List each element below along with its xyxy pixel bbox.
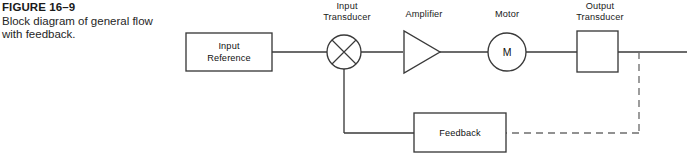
- label-amplifier: Amplifier: [405, 9, 442, 19]
- label-output-transducer-line1: Output: [586, 1, 615, 11]
- block-input-reference-line2: Reference: [207, 53, 251, 63]
- block-feedback-label: Feedback: [439, 128, 481, 138]
- block-motor-symbol: M: [503, 46, 512, 58]
- block-input-reference: [186, 33, 272, 71]
- block-input-reference-line1: Input: [218, 41, 239, 51]
- block-amplifier-triangle: [404, 31, 440, 73]
- block-diagram: Input Transducer Amplifier Motor Output …: [0, 0, 693, 163]
- block-output-transducer: [577, 31, 618, 72]
- label-input-transducer-line2: Transducer: [323, 12, 371, 22]
- label-input-transducer-line1: Input: [336, 1, 357, 11]
- label-output-transducer-line2: Transducer: [576, 12, 624, 22]
- label-motor: Motor: [495, 9, 519, 19]
- figure-root: FIGURE 16–9 Block diagram of general flo…: [0, 0, 693, 163]
